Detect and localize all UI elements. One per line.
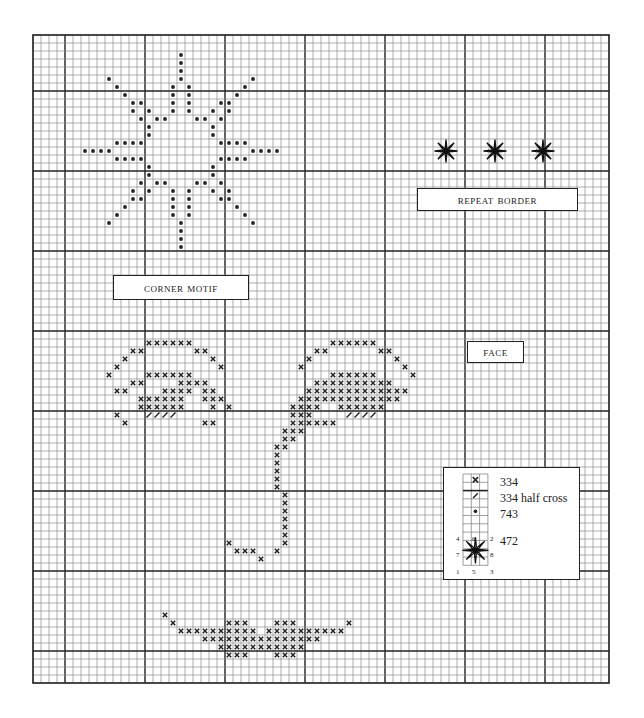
- face-label-text: FACE: [483, 344, 507, 360]
- repeat-border-label: REPEAT BORDER: [417, 188, 578, 211]
- cross-stitch-chart: [0, 0, 644, 718]
- stitch-legend: 334 334 half cross 743 472 4 6 2 7 8 1 5…: [443, 467, 580, 580]
- corner-motif-label-text: CORNER MOTIF: [144, 280, 218, 296]
- star-number-5: 5: [472, 568, 476, 576]
- star-number-2: 2: [490, 535, 494, 543]
- star-number-7: 7: [456, 551, 460, 559]
- legend-label-half-cross: 334 half cross: [500, 491, 567, 506]
- repeat-border-stars: [435, 140, 555, 163]
- star-number-1: 1: [456, 568, 460, 576]
- legend-label-star: 472: [500, 534, 518, 549]
- star-number-3: 3: [490, 568, 494, 576]
- repeat-border-label-text: REPEAT BORDER: [458, 192, 537, 208]
- legend-label-dot: 743: [500, 507, 518, 522]
- corner-motif-label: CORNER MOTIF: [113, 275, 249, 300]
- star-number-8: 8: [490, 551, 494, 559]
- face-label: FACE: [467, 341, 524, 363]
- star-number-4: 4: [456, 535, 460, 543]
- corner-motif-stitches: [83, 53, 279, 249]
- star-number-6: 6: [472, 535, 476, 543]
- legend-label-cross: 334: [500, 475, 518, 490]
